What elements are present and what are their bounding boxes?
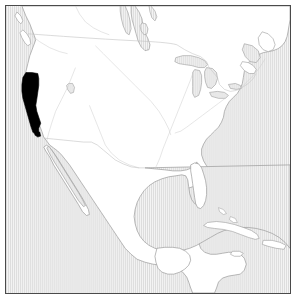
map-frame xyxy=(5,5,291,294)
map-canvas[interactable] xyxy=(6,6,290,293)
jamaica xyxy=(230,251,243,256)
map-figure xyxy=(0,0,297,301)
